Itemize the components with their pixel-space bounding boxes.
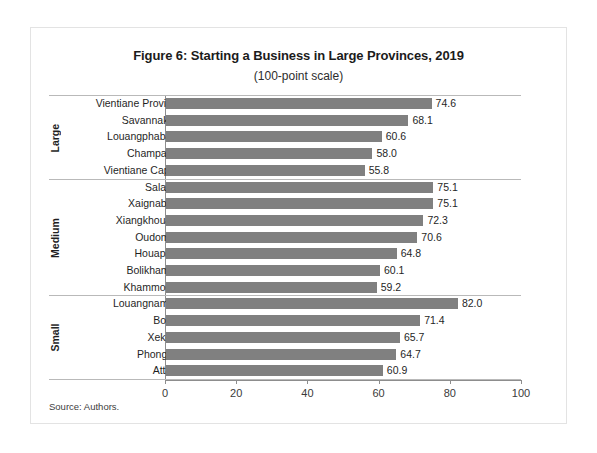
chart-row: Louangnamtha82.0 xyxy=(31,296,568,313)
group-separator xyxy=(49,295,521,296)
category-label: Bolikhamxai xyxy=(3,264,183,276)
chart-row: Xiangkhouang72.3 xyxy=(31,213,568,230)
bar-value-label: 68.1 xyxy=(412,114,432,126)
bar xyxy=(166,182,433,193)
bar-value-label: 82.0 xyxy=(462,297,482,309)
x-axis-tick xyxy=(521,380,522,384)
chart-row: Oudomxai70.6 xyxy=(31,230,568,247)
category-label: Houaphan xyxy=(3,247,183,259)
x-axis-tick-label: 0 xyxy=(145,387,185,399)
group-separator xyxy=(49,379,521,380)
bar-value-label: 65.7 xyxy=(404,331,424,343)
bar xyxy=(166,349,396,360)
bar xyxy=(166,215,423,226)
figure-page-frame: Figure 6: Starting a Business in Large P… xyxy=(30,27,567,424)
bar xyxy=(166,198,433,209)
chart-row: Xaignabouli75.1 xyxy=(31,196,568,213)
x-axis-tick xyxy=(450,380,451,384)
bar xyxy=(166,365,383,376)
bar xyxy=(166,131,382,142)
chart-row: Savannakhet68.1 xyxy=(31,113,568,130)
chart-row: Phongsali64.7 xyxy=(31,347,568,364)
bar xyxy=(166,98,432,109)
bar-value-label: 74.6 xyxy=(436,97,456,109)
category-label: Phongsali xyxy=(3,348,183,360)
group-separator xyxy=(49,179,521,180)
bar xyxy=(166,115,408,126)
chart-row: Attapu60.9 xyxy=(31,363,568,380)
chart-row: Louangphabang60.6 xyxy=(31,129,568,146)
group-label-large: Large xyxy=(49,96,61,180)
x-axis-tick xyxy=(307,380,308,384)
bar-value-label: 58.0 xyxy=(376,147,396,159)
bar-value-label: 59.2 xyxy=(381,281,401,293)
bar xyxy=(166,248,397,259)
category-label: Bokeo xyxy=(3,314,183,326)
source-note: Source: Authors. xyxy=(49,401,119,412)
x-axis-tick-label: 20 xyxy=(216,387,256,399)
bar-value-label: 75.1 xyxy=(437,181,457,193)
bar-value-label: 75.1 xyxy=(437,197,457,209)
bar-value-label: 55.8 xyxy=(369,164,389,176)
bar-value-label: 71.4 xyxy=(424,314,444,326)
group-label-small: Small xyxy=(49,296,61,380)
horizontal-bar-chart: 020406080100Vientiane Province74.6Savann… xyxy=(31,28,568,425)
x-axis-tick-label: 100 xyxy=(501,387,541,399)
bar-value-label: 70.6 xyxy=(421,231,441,243)
chart-row: Houaphan64.8 xyxy=(31,246,568,263)
x-axis-tick-label: 80 xyxy=(430,387,470,399)
category-label: Xaignabouli xyxy=(3,197,183,209)
bar xyxy=(166,232,417,243)
x-axis-tick xyxy=(236,380,237,384)
bar xyxy=(166,298,458,309)
bar-value-label: 64.7 xyxy=(400,348,420,360)
category-label: Vientiane Province xyxy=(3,97,183,109)
category-label: Louangnamtha xyxy=(3,297,183,309)
category-label: Champasak xyxy=(3,147,183,159)
group-separator xyxy=(49,95,521,96)
bar-value-label: 60.9 xyxy=(387,364,407,376)
chart-row: Salavan75.1 xyxy=(31,180,568,197)
chart-row: Champasak58.0 xyxy=(31,146,568,163)
chart-row: Bokeo71.4 xyxy=(31,313,568,330)
category-label: Attapu xyxy=(3,364,183,376)
x-axis-tick-label: 60 xyxy=(359,387,399,399)
bar-value-label: 72.3 xyxy=(427,214,447,226)
chart-row: Vientiane Province74.6 xyxy=(31,96,568,113)
category-label: Xekong xyxy=(3,331,183,343)
category-label: Oudomxai xyxy=(3,231,183,243)
x-axis-tick-label: 40 xyxy=(287,387,327,399)
category-label: Louangphabang xyxy=(3,130,183,142)
category-label: Salavan xyxy=(3,181,183,193)
chart-row: Khammouan59.2 xyxy=(31,280,568,297)
bar xyxy=(166,315,420,326)
chart-row: Vientiane Capital55.8 xyxy=(31,163,568,180)
bar xyxy=(166,265,380,276)
bar xyxy=(166,282,377,293)
x-axis-tick xyxy=(165,380,166,384)
category-label: Vientiane Capital xyxy=(3,164,183,176)
bar xyxy=(166,148,372,159)
bar-value-label: 60.1 xyxy=(384,264,404,276)
bar-value-label: 60.6 xyxy=(386,130,406,142)
chart-row: Xekong65.7 xyxy=(31,330,568,347)
category-label: Khammouan xyxy=(3,281,183,293)
bar xyxy=(166,332,400,343)
bar-value-label: 64.8 xyxy=(401,247,421,259)
chart-row: Bolikhamxai60.1 xyxy=(31,263,568,280)
bar xyxy=(166,165,365,176)
category-label: Savannakhet xyxy=(3,114,183,126)
category-label: Xiangkhouang xyxy=(3,214,183,226)
group-label-medium: Medium xyxy=(49,180,61,297)
x-axis-line xyxy=(165,380,521,381)
x-axis-tick xyxy=(379,380,380,384)
